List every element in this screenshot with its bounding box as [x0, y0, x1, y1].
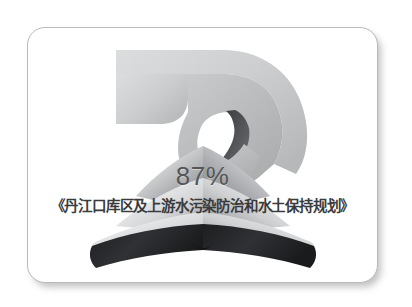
artwork-stage — [28, 28, 377, 282]
image-canvas: 87% 《丹江口库区及上游水污染防治和水土保持规划》 — [0, 0, 412, 307]
hand-and-book-illustration — [28, 28, 377, 282]
rounded-card: 87% 《丹江口库区及上游水污染防治和水土保持规划》 — [27, 27, 378, 283]
card-inner: 87% 《丹江口库区及上游水污染防治和水土保持规划》 — [28, 28, 377, 282]
